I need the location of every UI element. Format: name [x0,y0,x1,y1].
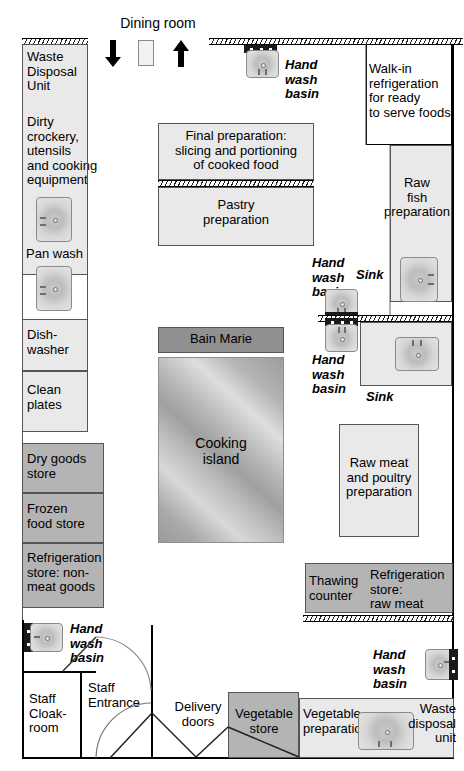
bain-marie-label: Bain Marie [158,332,284,347]
arrow-down-icon [104,40,122,68]
hand-wash-basin-left [30,623,63,652]
refrigeration-store-non-meat-label: Refrigeration store: non- meat goods [27,551,107,595]
vegetable-store-label: Vegetable store [229,707,299,736]
wall-between-final-prep-and-pastry [158,180,314,187]
sink-raw-fish [400,257,438,302]
raw-fish-preparation-label: Raw fish preparation [372,176,462,220]
staff-entrance-label: Staff Entrance [88,681,154,710]
hand-wash-basin-lower [325,324,358,352]
refrigeration-store-raw-meat-label: Refrigeration store: raw meat [370,568,456,612]
dishwasher-label: Dish- washer [27,328,87,357]
wall-below-thawing [303,615,453,622]
waste-disposal-unit-bottom-label: Waste disposal unit [406,702,456,746]
raw-meat-poultry-label: Raw meat and poultry preparation [337,456,421,500]
walk-in-refrigeration-label: Walk-in refrigeration for ready to serve… [369,62,461,120]
delivery-doors-label: Delivery doors [166,700,230,729]
dirty-crockery-label: Dirty crockery, utensils and cooking equ… [27,115,107,188]
final-preparation-label: Final preparation: slicing and portionin… [160,129,312,173]
sink-lower [395,337,439,371]
frozen-food-store-label: Frozen food store [27,502,107,531]
dining-room-label: Dining room [98,16,218,32]
wall-right-outer [452,44,454,652]
clean-plates-label: Clean plates [27,383,87,412]
service-door-icon [138,40,154,66]
pan-wash-basin-2 [36,266,72,311]
wall-staff-top [22,671,96,673]
dry-goods-store-label: Dry goods store [27,452,107,481]
hand-wash-basin-bottom-mount [449,649,458,680]
pan-wash-label: Pan wash [26,247,96,262]
sink-lower-label: Sink [366,390,416,405]
staff-cloakroom-label: Staff Cloak- room [29,692,89,736]
wall-panwash-right [87,275,88,319]
sink-upper-label: Sink [356,268,396,283]
waste-disposal-unit-label: Waste Disposal Unit [27,50,87,94]
cooking-island-label: Cooking island [158,436,284,467]
hand-wash-basin-top-label: Hand wash basin [285,58,345,102]
pastry-preparation-label: Pastry preparation [160,198,312,227]
hand-wash-basin-top [246,50,279,78]
hand-wash-basin-left-label: Hand wash basin [70,622,130,666]
pan-wash-basin-1 [36,197,72,242]
hand-wash-basin-bottom-label: Hand wash basin [373,648,423,692]
arrow-up-icon [172,40,190,68]
kitchen-floor-plan: Dining room Waste Disposal Unit Dirty cr… [0,0,464,771]
hand-wash-basin-lower-label: Hand wash basin [312,353,362,397]
wall-panwash-left [22,275,23,319]
thawing-counter-label: Thawing counter [309,574,369,603]
